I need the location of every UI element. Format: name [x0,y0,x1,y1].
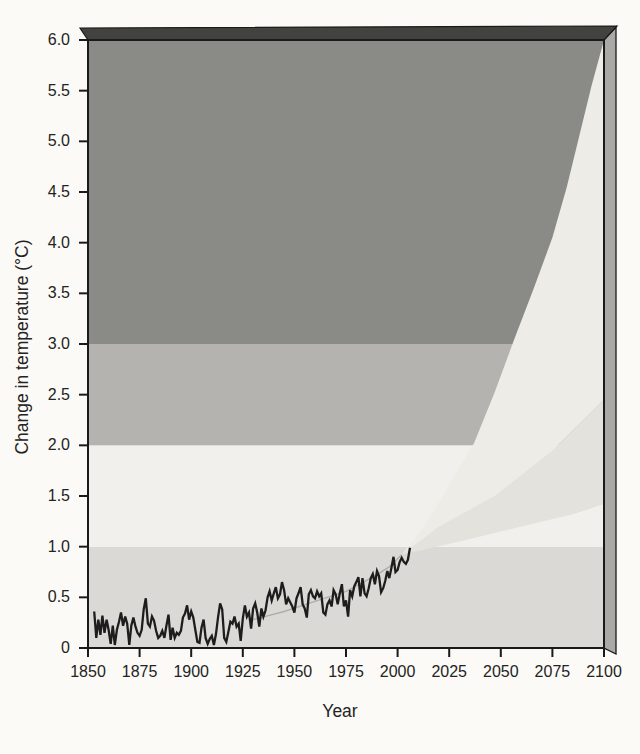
x-tick-label-1850: 1850 [62,663,114,681]
x-tick-label-2000: 2000 [372,663,424,681]
y-tick-label-2.5: 2.5 [28,386,70,404]
y-tick-label-1.5: 1.5 [28,487,70,505]
y-tick-label-3.5: 3.5 [28,284,70,302]
y-tick-label-4.5: 4.5 [28,183,70,201]
temperature-projection-chart [0,0,640,754]
x-tick-label-1900: 1900 [165,663,217,681]
y-axis-title: Change in temperature (°C) [12,172,34,522]
x-tick-label-1975: 1975 [320,663,372,681]
y-tick-label-6.0: 6.0 [28,31,70,49]
y-tick-label-1.0: 1.0 [28,538,70,556]
x-tick-label-2075: 2075 [526,663,578,681]
x-tick-label-2025: 2025 [423,663,475,681]
x-tick-label-2100: 2100 [578,663,630,681]
y-tick-label-5.0: 5.0 [28,132,70,150]
y-tick-label-5.5: 5.5 [28,82,70,100]
climate-projection-figure: 6.05.55.04.54.03.53.02.52.01.51.00.50185… [0,0,640,754]
y-tick-label-2.0: 2.0 [28,436,70,454]
plot-area [88,40,604,648]
x-tick-label-2050: 2050 [475,663,527,681]
x-axis-title: Year [210,701,470,722]
y-tick-label-0: 0 [28,639,70,657]
x-tick-label-1950: 1950 [268,663,320,681]
slab-side-face [604,27,616,654]
y-tick-label-4.0: 4.0 [28,234,70,252]
x-tick-label-1875: 1875 [114,663,166,681]
temperature-band-3-6 [88,40,604,344]
x-tick-label-1925: 1925 [217,663,269,681]
slab-top-face [80,26,617,40]
y-tick-label-0.5: 0.5 [28,588,70,606]
y-tick-label-3.0: 3.0 [28,335,70,353]
